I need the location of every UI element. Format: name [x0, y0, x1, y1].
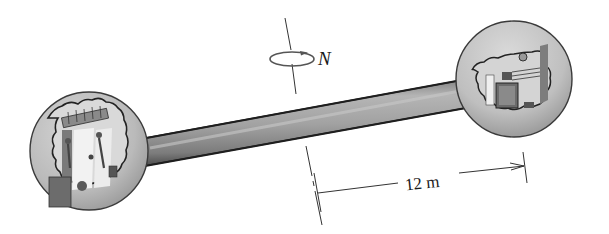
left-sphere-module	[30, 92, 148, 210]
connecting-rod	[140, 80, 466, 166]
rotation-arrow-icon	[270, 51, 314, 66]
right-sphere-module	[456, 21, 572, 137]
space-station-diagram: N	[0, 0, 609, 234]
radius-dimension: 12 m	[314, 152, 527, 212]
rotation-rate-label: N	[317, 48, 332, 69]
dimension-label: 12 m	[404, 172, 440, 195]
